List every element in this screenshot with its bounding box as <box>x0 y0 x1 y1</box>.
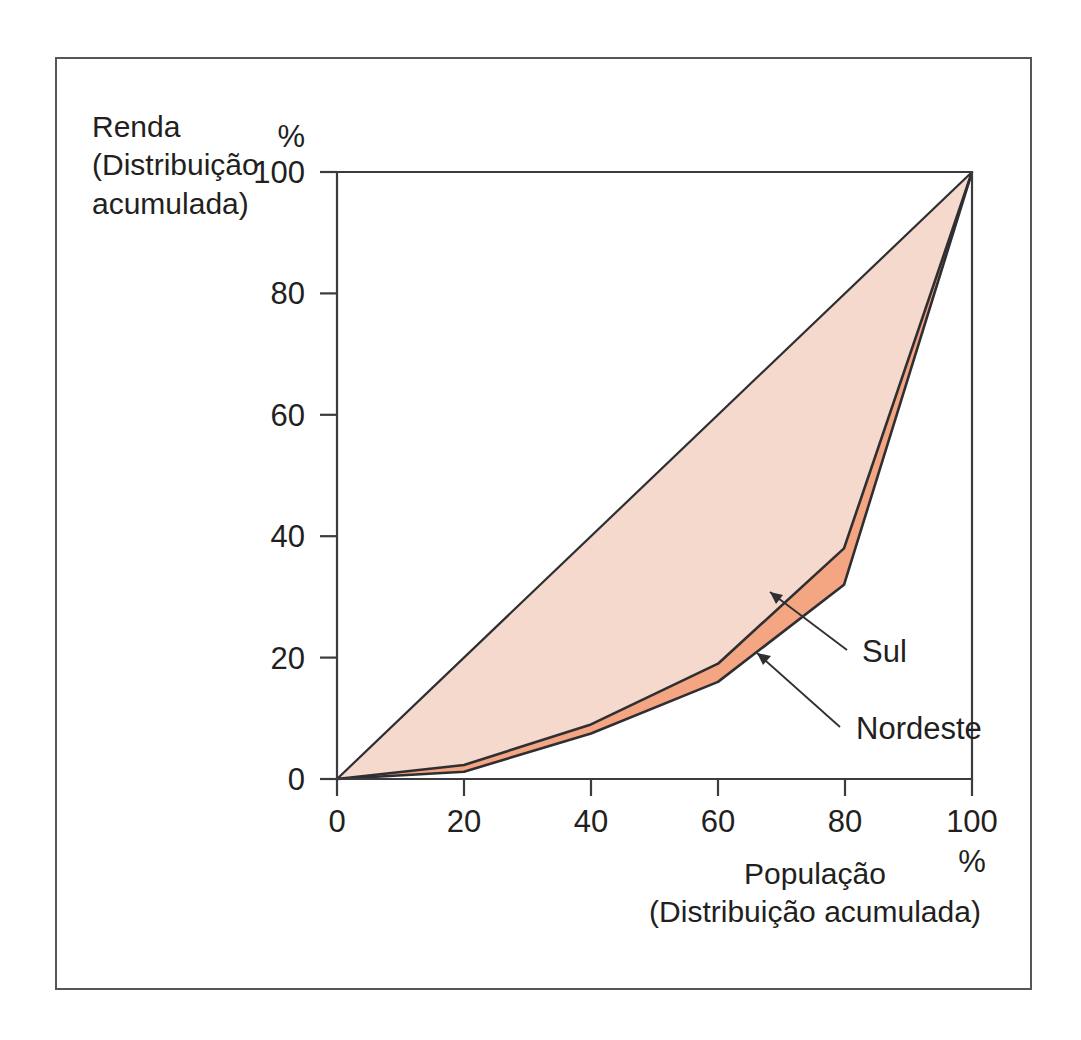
x-tick-label-0: 0 <box>328 804 345 839</box>
y-tick-label-20: 20 <box>271 641 305 676</box>
y-tick-label-0: 0 <box>288 762 305 797</box>
y-axis-ticks <box>320 172 337 779</box>
x-tick-label-60: 60 <box>701 804 735 839</box>
x-tick-label-40: 40 <box>574 804 608 839</box>
x-axis-ticks <box>337 779 972 796</box>
annotation-label-nordeste: Nordeste <box>856 711 982 746</box>
x-tick-label-100: 100 <box>946 804 998 839</box>
annotation-label-sul: Sul <box>862 634 907 669</box>
y-tick-label-40: 40 <box>271 519 305 554</box>
y-tick-label-60: 60 <box>271 398 305 433</box>
x-tick-label-80: 80 <box>828 804 862 839</box>
y-tick-label-80: 80 <box>271 276 305 311</box>
y-axis-caption: Renda (Distribuição acumulada) <box>92 108 327 223</box>
x-tick-label-20: 20 <box>447 804 481 839</box>
x-axis-caption: População (Distribuição acumulada) <box>600 855 1030 932</box>
lorenz-curve-figure: % 100 80 60 40 20 0 0 20 40 60 80 100 % … <box>0 0 1081 1040</box>
